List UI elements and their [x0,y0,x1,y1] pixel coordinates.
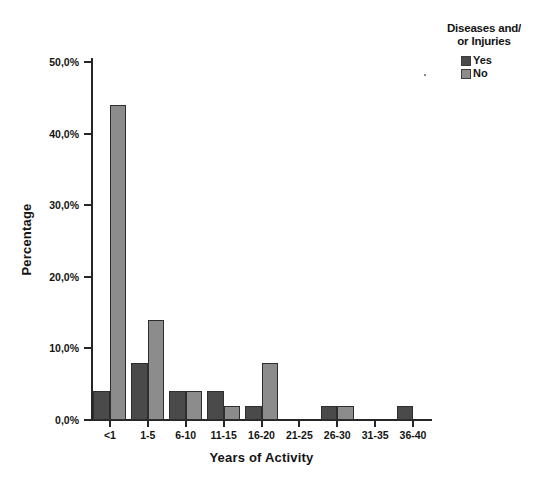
x-axis-tick [185,421,187,427]
y-axis-title: Percentage [19,170,34,310]
bar-yes-26-30[interactable] [321,406,338,420]
x-axis-tick [261,421,263,427]
x-axis-tick-label: 16-20 [243,430,281,441]
bar-chart-figure: Diseases and/ or Injuries Yes No 0,0%10,… [0,0,553,484]
bar-yes-1-5[interactable] [131,363,148,420]
legend-entry-no[interactable]: No [461,68,488,79]
y-axis-tick-label: 30,0% [49,200,79,210]
legend-title: Diseases and/ or Injuries [418,22,550,48]
y-axis-tick [84,419,92,421]
y-axis-tick-label: 0,0% [55,415,79,425]
y-axis-tick-label: 50,0% [49,57,79,67]
bar-no-26-30[interactable] [337,406,354,420]
bar-no-11-15[interactable] [224,406,241,420]
x-axis-tick [223,421,225,427]
x-axis-tick [374,421,376,427]
y-axis-tick [84,133,92,135]
x-axis-tick-label: 26-30 [318,430,356,441]
y-axis-tick [84,61,92,63]
bar-yes-36-40[interactable] [397,406,414,420]
y-axis-line [91,58,93,421]
x-axis-tick-label: 36-40 [394,430,432,441]
bar-no-6-10[interactable] [186,391,203,420]
bar-no-16-20[interactable] [262,363,279,420]
x-axis-tick [336,421,338,427]
y-axis-tick-label: 10,0% [49,343,79,353]
y-axis-tick-label: 20,0% [49,272,79,282]
x-axis-tick [298,421,300,427]
x-axis-title: Years of Activity [91,450,432,465]
legend-entries: Yes No [418,55,550,81]
legend-label-no: No [473,68,488,79]
x-axis-tick [109,421,111,427]
legend-title-line-1: Diseases and/ [447,22,521,34]
x-axis-tick-label: 6-10 [167,430,205,441]
bar-yes-11-15[interactable] [207,391,224,420]
legend-label-yes: Yes [473,55,492,66]
y-axis-tick-label: 40,0% [49,129,79,139]
x-axis-tick-label: 31-35 [356,430,394,441]
bar-no-1-5[interactable] [148,320,165,420]
legend-title-line-2: or Injuries [457,35,510,47]
x-axis-tick-label: 21-25 [280,430,318,441]
bar-yes-<1[interactable] [93,391,110,420]
x-axis-tick [147,421,149,427]
bar-yes-16-20[interactable] [245,406,262,420]
x-axis-tick-label: 1-5 [129,430,167,441]
bar-no-<1[interactable] [110,105,127,420]
x-axis-tick-label: <1 [91,430,129,441]
y-axis-tick [84,276,92,278]
legend-swatch-yes [461,56,471,66]
y-axis-tick [84,347,92,349]
scan-speck [424,74,426,76]
x-axis-tick [412,421,414,427]
legend-entry-yes[interactable]: Yes [461,55,492,66]
legend-swatch-no [461,69,471,79]
bar-yes-6-10[interactable] [169,391,186,420]
y-axis-tick [84,204,92,206]
chart-legend: Diseases and/ or Injuries Yes No [418,22,550,81]
x-axis-tick-label: 11-15 [205,430,243,441]
